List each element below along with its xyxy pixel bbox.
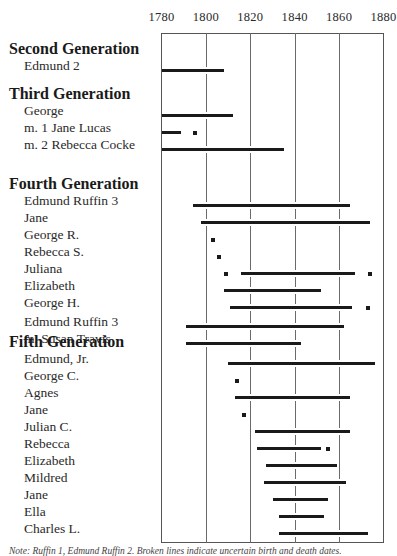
x-tick-label: 1880: [370, 10, 396, 25]
event-dot: [211, 238, 215, 242]
lifespan-bar: [230, 306, 352, 309]
lifespan-bar: [255, 430, 350, 433]
lifespan-bar: [279, 532, 368, 535]
person-label: Julian C.: [24, 419, 72, 435]
x-tick-label: 1800: [193, 10, 219, 25]
person-label: Elizabeth: [24, 453, 75, 469]
person-label: Edmund 2: [24, 58, 80, 74]
generation-heading: Fourth Generation: [9, 175, 138, 193]
event-dot: [193, 131, 197, 135]
person-label: Edmund, Jr.: [24, 351, 89, 367]
person-label: Agnes: [24, 385, 59, 401]
gridline: [250, 33, 251, 543]
x-tick-label: 1840: [282, 10, 308, 25]
person-label: m. 1 Jane Lucas: [24, 120, 111, 136]
person-label: Mildred: [24, 470, 68, 486]
generation-heading: Third Generation: [9, 85, 130, 103]
lifespan-bar: [224, 289, 322, 292]
chart-caption: Note: Ruffin 1, Edmund Ruffin 2. Broken …: [9, 546, 342, 556]
person-label: Rebecca: [24, 436, 70, 452]
lifespan-bar: [186, 325, 344, 328]
event-dot: [224, 272, 228, 276]
person-label: Rebecca S.: [24, 244, 84, 260]
person-label: Jane: [24, 210, 48, 226]
lifespan-bar: [241, 272, 354, 275]
event-dot: [326, 447, 330, 451]
lifespan-bar: [228, 362, 375, 365]
event-dot: [217, 255, 221, 259]
person-label: George H.: [24, 295, 80, 311]
person-label: Edmund Ruffin 3: [24, 314, 118, 330]
event-dot: [366, 306, 370, 310]
lifespan-bar: [266, 464, 337, 467]
gridline: [339, 33, 340, 543]
person-label: George C.: [24, 368, 79, 384]
lifespan-bar: [162, 114, 233, 117]
x-tick-label: 1860: [326, 10, 352, 25]
person-label: m. 2 Rebecca Cocke: [24, 137, 135, 153]
person-label: George R.: [24, 227, 79, 243]
person-label: Ella: [24, 504, 46, 520]
generation-heading: Fifth Generation: [9, 333, 124, 351]
event-dot: [235, 379, 239, 383]
person-label: George: [24, 103, 64, 119]
x-tick-label: 1780: [148, 10, 174, 25]
lifespan-bar: [257, 447, 321, 450]
person-label: Charles L.: [24, 521, 80, 537]
lifespan-bar: [273, 498, 329, 501]
person-label: Jane: [24, 402, 48, 418]
person-label: Elizabeth: [24, 278, 75, 294]
person-label: Juliana: [24, 261, 62, 277]
person-label: Jane: [24, 487, 48, 503]
gridline: [206, 33, 207, 543]
lifespan-bar: [186, 342, 301, 345]
lifespan-bar: [264, 481, 346, 484]
lifespan-bar: [279, 515, 323, 518]
event-dot: [368, 272, 372, 276]
lifespan-bar: [235, 396, 350, 399]
person-label: Edmund Ruffin 3: [24, 193, 118, 209]
lifespan-bar: [162, 131, 182, 134]
generation-heading: Second Generation: [9, 40, 139, 58]
lifespan-bar: [162, 69, 224, 72]
lifespan-bar: [201, 221, 370, 224]
lifespan-bar: [193, 204, 351, 207]
event-dot: [242, 413, 246, 417]
x-tick-label: 1820: [237, 10, 263, 25]
lifespan-bar: [162, 148, 284, 151]
